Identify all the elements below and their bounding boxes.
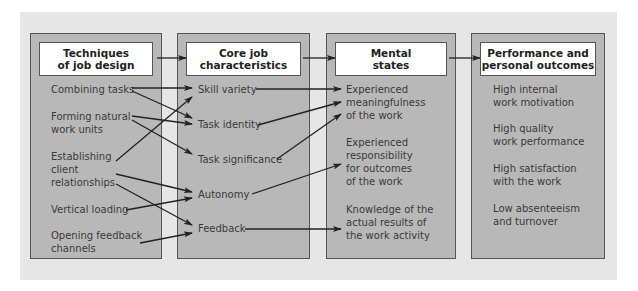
connection-arrows	[0, 0, 638, 291]
